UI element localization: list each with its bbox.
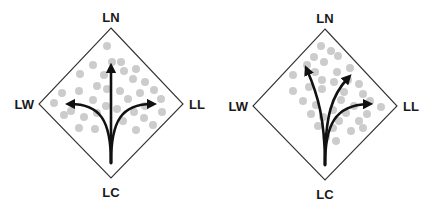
left-label-ll: LL bbox=[189, 97, 205, 112]
left-panel: LN LW LL LC bbox=[15, 10, 205, 200]
right-label-ln: LN bbox=[316, 11, 333, 26]
left-label-ln: LN bbox=[102, 10, 119, 25]
diagram-canvas: LN LW LL LC bbox=[0, 0, 431, 212]
left-label-lw: LW bbox=[15, 97, 35, 112]
left-dots bbox=[50, 42, 166, 134]
left-label-lc: LC bbox=[102, 185, 120, 200]
right-panel: LN LW LL LC bbox=[229, 11, 419, 202]
arrow-to-lw bbox=[70, 104, 111, 163]
right-label-lc: LC bbox=[316, 187, 334, 202]
right-label-lw: LW bbox=[229, 99, 249, 114]
right-label-ll: LL bbox=[403, 99, 419, 114]
